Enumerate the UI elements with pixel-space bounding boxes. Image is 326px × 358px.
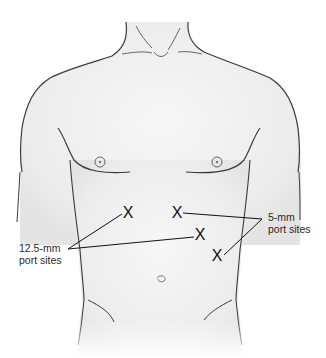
label-5mm-port-sites: 5-mm port sites (268, 211, 311, 235)
label-12-5mm-port-sites: 12.5-mm port sites (19, 242, 62, 266)
right-nipple-center (216, 161, 218, 163)
port-marker-center-upper: X (172, 205, 183, 221)
label-12-5mm-line2: port sites (19, 254, 62, 266)
left-arm-line (17, 172, 20, 222)
port-marker-right-lower: X (212, 248, 223, 264)
left-nipple-center (99, 161, 101, 163)
port-marker-left-upper: X (123, 205, 134, 221)
torso-diagram (0, 0, 326, 358)
port-marker-right-middle: X (195, 227, 206, 243)
label-5mm-line2: port sites (268, 223, 311, 235)
label-5mm-line1: 5-mm (268, 211, 311, 223)
bottom-fade (0, 320, 326, 358)
label-12-5mm-line1: 12.5-mm (19, 242, 62, 254)
